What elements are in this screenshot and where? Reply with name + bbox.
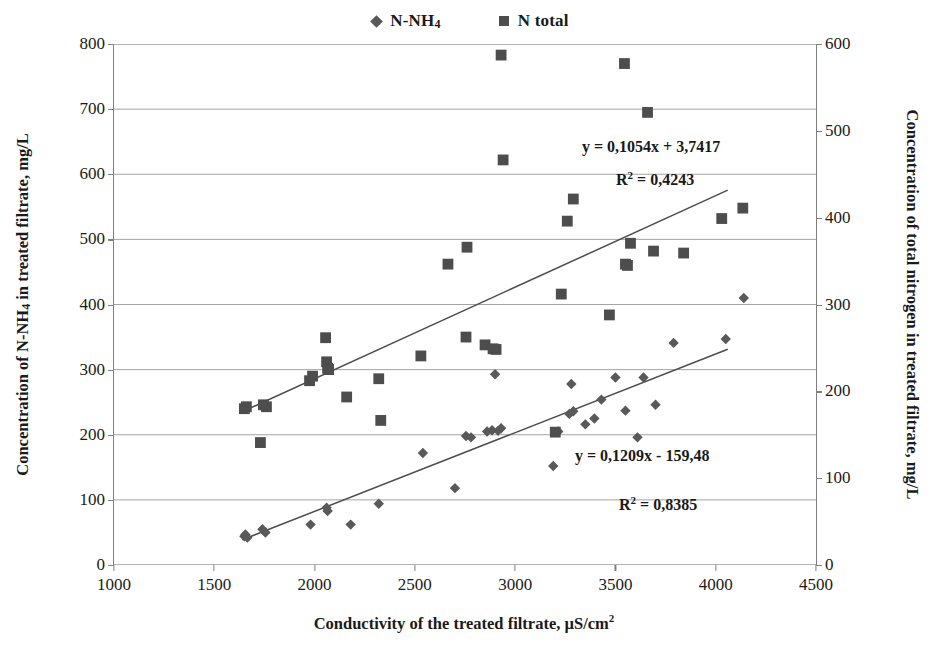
- y-axis-left-tick-label: 500: [80, 229, 106, 249]
- data-point-square: [255, 437, 266, 448]
- y-axis-right-tick-mark: [816, 218, 822, 219]
- data-point-square: [568, 194, 579, 205]
- diamond-marker-icon: [370, 15, 383, 28]
- x-axis-tick-label: 4000: [699, 575, 733, 595]
- y-axis-left-tick-label: 200: [80, 425, 106, 445]
- y-axis-left-tick-label: 0: [97, 555, 106, 575]
- x-axis-tick-mark: [815, 565, 816, 571]
- equation-label-n-nh4: y = 0,1209x - 159,48: [575, 447, 709, 465]
- x-axis-title: Conductivity of the treated filtrate, µS…: [113, 612, 815, 634]
- data-point-square: [320, 332, 331, 343]
- y-axis-left-tick-mark: [108, 305, 114, 306]
- y-axis-left-tick-mark: [108, 435, 114, 436]
- y-axis-left-tick-label: 700: [80, 99, 106, 119]
- data-point-square: [323, 364, 334, 375]
- y-axis-right-tick-label: 500: [825, 121, 851, 141]
- x-axis-tick-mark: [113, 565, 114, 571]
- data-point-square: [461, 332, 472, 343]
- x-axis-tick-label: 2500: [398, 575, 432, 595]
- data-point-square: [619, 58, 630, 69]
- y-axis-left-tick-label: 800: [80, 34, 106, 54]
- data-point-diamond: [305, 519, 315, 529]
- square-marker-icon: [499, 16, 509, 26]
- y-axis-right-tick-mark: [816, 305, 822, 306]
- data-point-square: [415, 351, 426, 362]
- data-point-square: [716, 213, 727, 224]
- data-point-square: [375, 415, 386, 426]
- x-axis-tick-mark: [214, 565, 215, 571]
- y-axis-right-tick-mark: [816, 44, 822, 45]
- data-point-square: [562, 216, 573, 227]
- data-point-square: [625, 238, 636, 249]
- data-point-diamond: [668, 338, 678, 348]
- x-axis-tick-label: 1000: [97, 575, 131, 595]
- data-point-square: [604, 310, 615, 321]
- y-axis-left-tick-mark: [108, 109, 114, 110]
- data-point-diamond: [596, 394, 606, 404]
- y-axis-right-tick-label: 200: [825, 381, 851, 401]
- data-point-square: [307, 371, 318, 382]
- x-axis-tick-label: 3000: [498, 575, 532, 595]
- data-point-square: [622, 260, 633, 271]
- y-axis-left-tick-label: 600: [80, 164, 106, 184]
- scatter-chart: N-NH4 N total Concentration of N-NH4 in …: [0, 0, 941, 662]
- data-point-square: [373, 373, 384, 384]
- y-axis-left-tick-label: 100: [80, 490, 106, 510]
- y-axis-right-tick-mark: [816, 565, 822, 566]
- data-point-diamond: [650, 400, 660, 410]
- y-axis-right-tick-label: 100: [825, 468, 851, 488]
- data-point-diamond: [739, 293, 749, 303]
- y-axis-right-tick-mark: [816, 131, 822, 132]
- x-axis-tick-mark: [314, 565, 315, 571]
- data-point-square: [737, 203, 748, 214]
- y-axis-right-tick-label: 0: [825, 555, 834, 575]
- data-point-square: [341, 392, 352, 403]
- y-axis-left-tick-mark: [108, 174, 114, 175]
- y-axis-right-tick-label: 300: [825, 295, 851, 315]
- x-axis-tick-mark: [414, 565, 415, 571]
- plot-canvas: [114, 44, 816, 565]
- data-point-diamond: [418, 448, 428, 458]
- data-point-diamond: [580, 419, 590, 429]
- x-axis-tick-mark: [515, 565, 516, 571]
- y-axis-left-tick-label: 400: [80, 295, 106, 315]
- r2-label-n-total: R2 = 0,4243: [616, 169, 694, 189]
- x-axis-tick-mark: [615, 565, 616, 571]
- y-axis-right-tick-label: 600: [825, 34, 851, 54]
- data-point-square: [261, 401, 272, 412]
- data-point-diamond: [345, 519, 355, 529]
- y-axis-right-tick-label: 400: [825, 208, 851, 228]
- data-point-square: [556, 289, 567, 300]
- data-point-square: [491, 344, 502, 355]
- data-point-square: [241, 401, 252, 412]
- r2-label-n-nh4: R2 = 0,8385: [619, 494, 697, 514]
- legend-label-n-total: N total: [518, 11, 569, 31]
- y-axis-left-tick-mark: [108, 239, 114, 240]
- y-axis-left-tick-mark: [108, 370, 114, 371]
- data-point-square: [462, 242, 473, 253]
- y-axis-left-tick-mark: [108, 44, 114, 45]
- legend-item-n-nh4[interactable]: N-NH4: [372, 11, 440, 31]
- legend-label-n-nh4: N-NH4: [390, 11, 440, 31]
- data-point-diamond: [721, 334, 731, 344]
- data-point-diamond: [620, 405, 630, 415]
- data-point-square: [550, 427, 561, 438]
- y-axis-right-tick-mark: [816, 478, 822, 479]
- x-axis-tick-label: 1500: [197, 575, 231, 595]
- data-point-diamond: [589, 413, 599, 423]
- chart-legend: N-NH4 N total: [0, 6, 941, 36]
- y-axis-right-title: Concentration of total nitrogen in treat…: [899, 44, 925, 565]
- data-point-diamond: [548, 461, 558, 471]
- plot-area: 0100200300400500600700800010020030040050…: [113, 44, 817, 565]
- data-point-diamond: [490, 369, 500, 379]
- y-axis-right-tick-mark: [816, 391, 822, 392]
- y-axis-left-tick-mark: [108, 500, 114, 501]
- data-point-square: [648, 246, 659, 257]
- data-point-square: [443, 259, 454, 270]
- legend-item-n-total[interactable]: N total: [499, 11, 569, 31]
- data-point-square: [496, 50, 507, 61]
- y-axis-left-tick-label: 300: [80, 360, 106, 380]
- data-point-diamond: [610, 372, 620, 382]
- equation-label-n-total: y = 0,1054x + 3,7417: [582, 138, 720, 156]
- data-point-diamond: [450, 483, 460, 493]
